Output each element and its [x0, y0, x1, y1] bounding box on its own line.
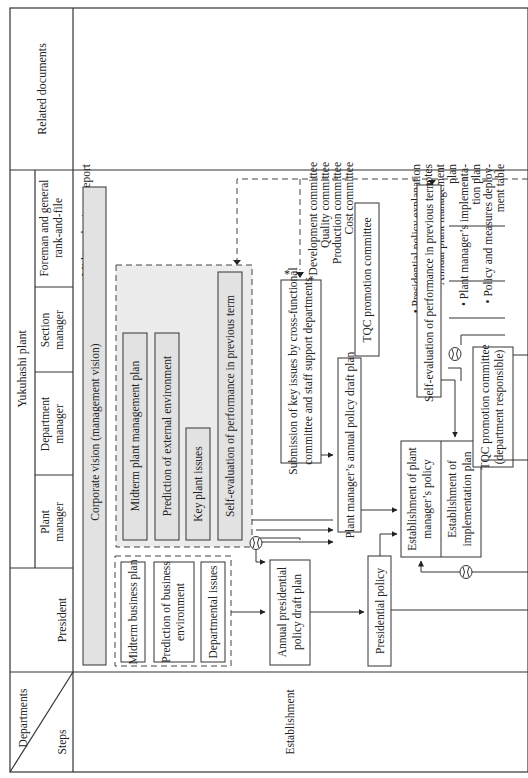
asterisk: * — [284, 267, 290, 281]
svg-text:policy draft plan: policy draft plan — [291, 574, 304, 650]
svg-text:Establishment of plant: Establishment of plant — [406, 446, 419, 550]
svg-text:implementation plan: implementation plan — [461, 451, 474, 546]
svg-text:Establishment of: Establishment of — [446, 460, 458, 538]
svg-text:manager: manager — [53, 310, 66, 350]
svg-text:Self-evaluation of performance: Self-evaluation of performance in previo… — [423, 180, 436, 402]
submission-key-issues-box: Submission of key issues by cross-functi… — [281, 267, 321, 475]
header-departments: Departments — [17, 688, 30, 747]
svg-text:Plant manager’s annual policy: Plant manager’s annual policy draft plan — [344, 351, 357, 538]
svg-text:Prediction of business: Prediction of business — [160, 561, 172, 663]
policy-deployment-flowchart: Related documents Yukuhashi plant Forema… — [0, 0, 528, 778]
svg-text:rank-and-file: rank-and-file — [52, 198, 64, 258]
header-related-documents: Related documents — [35, 43, 49, 135]
svg-text:manager’s policy: manager’s policy — [421, 459, 434, 539]
svg-text:manager: manager — [53, 404, 66, 444]
svg-text:Plant: Plant — [39, 509, 51, 533]
svg-text:ment table: ment table — [494, 164, 506, 212]
plant-manager-draft-box: Plant manager’s annual policy draft plan — [338, 351, 361, 538]
header-yukuhashi-plant: Yukuhashi plant — [15, 330, 29, 408]
svg-text:Prediction of external environ: Prediction of external environment — [161, 355, 173, 516]
annual-presidential-draft-box: Annual presidential policy draft plan — [270, 560, 310, 665]
svg-text:Key plant issues: Key plant issues — [192, 446, 205, 522]
svg-text:environment: environment — [174, 582, 186, 641]
establishment-plant-policy-box: Establishment of plant manager’s policy … — [401, 441, 481, 557]
svg-text:committee and staff support de: committee and staff support departments — [302, 277, 315, 465]
header-foreman: Foreman and general rank-and-file — [38, 179, 64, 276]
tqc-committee-box: TQC promotion committee — [355, 203, 379, 356]
svg-text:Corporate vision (management v: Corporate vision (management vision) — [89, 343, 102, 520]
meeting-icon — [250, 537, 262, 550]
president-inputs-group: Midterm business plan Prediction of busi… — [115, 556, 231, 666]
header-steps: Steps — [56, 729, 69, 754]
meeting-icon — [460, 566, 472, 579]
corporate-vision-box: Corporate vision (management vision) — [83, 187, 106, 665]
self-eval-prev-term-box: Self-evaluation of performance in previo… — [417, 180, 441, 402]
svg-text:manager: manager — [53, 502, 66, 542]
svg-text:Midterm plant management plan: Midterm plant management plan — [129, 361, 142, 512]
header-department-manager: Department manager — [39, 396, 66, 451]
related-docs-committees: *Development committee Quality committee… — [307, 162, 355, 281]
svg-text:Cost committee: Cost committee — [343, 162, 355, 235]
svg-text:(department responsible): (department responsible) — [493, 350, 506, 465]
header-plant-manager: Plant manager — [39, 502, 66, 542]
svg-text:TQC promotion committee: TQC promotion committee — [361, 217, 374, 342]
tqc-committee-dept-box: TQC promotion committee (department resp… — [473, 344, 513, 469]
svg-text:Departmental issues: Departmental issues — [207, 565, 220, 658]
svg-text:TQC promotion committee: TQC promotion committee — [479, 344, 492, 469]
svg-text:Department: Department — [39, 396, 52, 451]
plant-inputs-group: Midterm plant management plan Prediction… — [116, 265, 252, 547]
header-president: President — [55, 597, 69, 642]
svg-text:Foreman and general: Foreman and general — [38, 179, 51, 276]
meeting-icon — [449, 348, 461, 361]
svg-text:Production committee: Production committee — [331, 162, 343, 264]
header-section-manager: Section manager — [39, 310, 66, 350]
svg-text:Midterm business plan: Midterm business plan — [127, 559, 140, 664]
svg-text:Annual presidential: Annual presidential — [276, 567, 289, 657]
svg-text:Self-evaluation of performance: Self-evaluation of performance in previo… — [224, 295, 237, 517]
step-establishment: Establishment — [284, 689, 296, 755]
presidential-policy-box: Presidential policy — [368, 556, 391, 666]
svg-text:Submission of key issues by cr: Submission of key issues by cross-functi… — [287, 267, 300, 474]
svg-text:Section: Section — [39, 313, 51, 348]
svg-text:Presidential policy: Presidential policy — [374, 568, 387, 654]
